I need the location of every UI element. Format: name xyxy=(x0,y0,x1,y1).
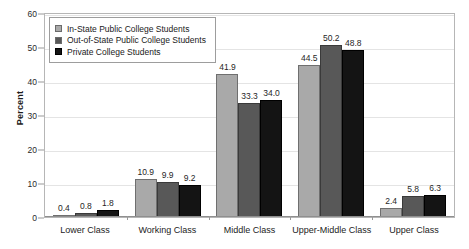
x-axis-label-4: Upper Class xyxy=(373,225,455,235)
bar-value-label: 50.2 xyxy=(323,33,340,43)
bar-slot: 2.4 xyxy=(380,14,402,216)
y-axis-ticks: 0102030405060 xyxy=(0,0,44,249)
bar[interactable] xyxy=(135,179,157,216)
legend-item[interactable]: Out-of-State Public College Students xyxy=(55,35,206,45)
x-axis-label-1: Working Class xyxy=(126,225,208,235)
bar-value-label: 0.8 xyxy=(80,201,92,211)
bar-value-label: 44.5 xyxy=(301,53,318,63)
bar-slot: 41.9 xyxy=(216,14,238,216)
bar-slot: 33.3 xyxy=(238,14,260,216)
bar-value-label: 34.0 xyxy=(263,88,280,98)
legend-color-swatch xyxy=(55,37,62,44)
legend-label: In-State Public College Students xyxy=(67,24,189,34)
legend-color-swatch xyxy=(55,48,62,55)
bar-value-label: 5.8 xyxy=(407,184,419,194)
legend-color-swatch xyxy=(55,25,62,32)
y-tick-label-10: 10 xyxy=(28,179,37,189)
x-axis-label-0: Lower Class xyxy=(44,225,126,235)
bar-value-label: 9.2 xyxy=(184,173,196,183)
bar-slot: 5.8 xyxy=(402,14,424,216)
bar-value-label: 6.3 xyxy=(429,183,441,193)
bar[interactable] xyxy=(157,182,179,216)
legend-item[interactable]: In-State Public College Students xyxy=(55,24,206,34)
y-tick-label-60: 60 xyxy=(28,9,37,19)
legend-item[interactable]: Private College Students xyxy=(55,47,206,57)
x-axis-baseline xyxy=(45,216,454,217)
bar-group: 44.550.248.8 xyxy=(290,14,372,216)
x-axis-label-3: Upper-Middle Class xyxy=(291,225,373,235)
legend-label: Private College Students xyxy=(67,47,161,57)
bar-value-label: 0.4 xyxy=(58,203,70,213)
bar[interactable] xyxy=(97,210,119,216)
bar-group: 41.933.334.0 xyxy=(209,14,291,216)
bar-value-label: 33.3 xyxy=(241,91,258,101)
x-tick-mark xyxy=(372,216,373,220)
bar[interactable] xyxy=(216,74,238,216)
y-tick-label-50: 50 xyxy=(28,43,37,53)
bar[interactable] xyxy=(179,185,201,216)
x-tick-mark xyxy=(290,216,291,220)
bar[interactable] xyxy=(53,215,75,217)
y-tick-label-20: 20 xyxy=(28,145,37,155)
y-tick-label-0: 0 xyxy=(32,213,37,223)
bar-slot: 6.3 xyxy=(424,14,446,216)
chart-legend: In-State Public College StudentsOut-of-S… xyxy=(49,17,216,63)
bar-slot: 44.5 xyxy=(298,14,320,216)
x-axis-label-2: Middle Class xyxy=(208,225,290,235)
x-axis-labels: Lower ClassWorking ClassMiddle ClassUppe… xyxy=(44,225,455,235)
bar-value-label: 1.8 xyxy=(102,198,114,208)
bar[interactable] xyxy=(260,100,282,216)
bar[interactable] xyxy=(320,45,342,216)
bar-slot: 34.0 xyxy=(260,14,282,216)
bar-chart: Percent 0102030405060 0.40.81.810.99.99.… xyxy=(0,0,469,249)
bar[interactable] xyxy=(342,50,364,216)
bar-slot: 50.2 xyxy=(320,14,342,216)
bar[interactable] xyxy=(380,208,402,216)
bar-value-label: 9.9 xyxy=(162,170,174,180)
bar[interactable] xyxy=(298,65,320,216)
bar[interactable] xyxy=(238,103,260,216)
y-tick-label-40: 40 xyxy=(28,77,37,87)
y-tick-label-30: 30 xyxy=(28,111,37,121)
x-tick-mark xyxy=(209,216,210,220)
legend-label: Out-of-State Public College Students xyxy=(67,35,206,45)
bar-value-label: 10.9 xyxy=(137,167,154,177)
x-tick-mark xyxy=(127,216,128,220)
bar-slot: 48.8 xyxy=(342,14,364,216)
bar-value-label: 2.4 xyxy=(385,196,397,206)
bar[interactable] xyxy=(424,195,446,216)
bar-value-label: 41.9 xyxy=(219,62,236,72)
bar[interactable] xyxy=(75,213,97,216)
bar[interactable] xyxy=(402,196,424,216)
bar-value-label: 48.8 xyxy=(345,38,362,48)
bar-group: 2.45.86.3 xyxy=(372,14,454,216)
